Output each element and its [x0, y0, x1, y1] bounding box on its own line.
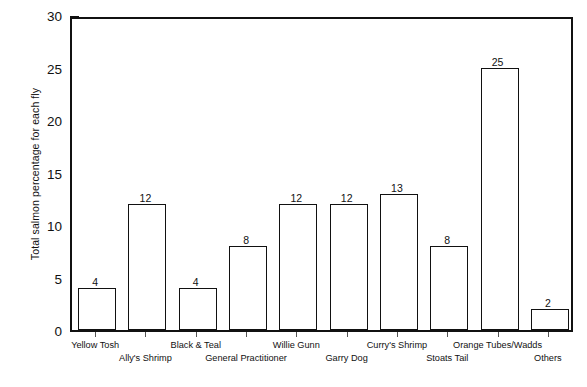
- bar-yellow-tosh[interactable]: [78, 288, 116, 330]
- x-tick: [145, 332, 146, 337]
- bar-ally-s-shrimp[interactable]: [128, 204, 166, 330]
- bar-willie-gunn[interactable]: [279, 204, 317, 330]
- y-tick-label-10: 10: [28, 220, 62, 234]
- bar-value-label: 2: [528, 297, 568, 309]
- bar-value-label: 4: [176, 276, 216, 288]
- y-tick-label-30: 30: [28, 10, 62, 24]
- x-tick-label-black-teal: Black & Teal: [171, 340, 221, 350]
- bar-chart-figure: Total salmon percentage for each fly 051…: [0, 0, 587, 387]
- bar-orange-tubes-wadds[interactable]: [481, 68, 519, 331]
- x-tick-label-ally-s-shrimp: Ally's Shrimp: [119, 353, 172, 363]
- y-tick-label-25: 25: [28, 63, 62, 77]
- x-tick: [397, 332, 398, 337]
- x-tick-label-curry-s-shrimp: Curry's Shrimp: [367, 340, 427, 350]
- bar-value-label: 8: [226, 234, 266, 246]
- x-tick-label-garry-dog: Garry Dog: [325, 353, 367, 363]
- y-tick-label-5: 5: [28, 273, 62, 287]
- bar-black-teal[interactable]: [179, 288, 217, 330]
- y-tick-label-0: 0: [28, 325, 62, 339]
- bar-value-label: 12: [125, 192, 165, 204]
- bar-curry-s-shrimp[interactable]: [380, 194, 418, 331]
- x-tick: [498, 332, 499, 337]
- x-tick: [95, 332, 96, 337]
- x-tick: [296, 332, 297, 337]
- bar-garry-dog[interactable]: [330, 204, 368, 330]
- bar-value-label: 4: [75, 276, 115, 288]
- bar-others[interactable]: [531, 309, 569, 330]
- bar-general-practitioner[interactable]: [229, 246, 267, 330]
- bar-stoats-tail[interactable]: [430, 246, 468, 330]
- bar-value-label: 12: [276, 192, 316, 204]
- x-tick-label-willie-gunn: Willie Gunn: [273, 340, 320, 350]
- x-tick-label-stoats-tail: Stoats Tail: [426, 353, 468, 363]
- y-tick-label-20: 20: [28, 115, 62, 129]
- x-tick: [246, 332, 247, 337]
- x-tick: [196, 332, 197, 337]
- y-tick-label-15: 15: [28, 168, 62, 182]
- bar-value-label: 12: [327, 192, 367, 204]
- x-tick-label-others: Others: [534, 353, 562, 363]
- bar-value-label: 25: [478, 56, 518, 68]
- bar-value-label: 8: [427, 234, 467, 246]
- x-tick: [347, 332, 348, 337]
- x-tick-label-yellow-tosh: Yellow Tosh: [71, 340, 119, 350]
- x-tick-label-general-practitioner: General Practitioner: [205, 353, 287, 363]
- x-tick-label-orange-tubes-wadds: Orange Tubes/Wadds: [453, 340, 542, 350]
- x-tick: [548, 332, 549, 337]
- bar-value-label: 13: [377, 182, 417, 194]
- x-tick: [447, 332, 448, 337]
- cropped-caption: [0, 377, 587, 387]
